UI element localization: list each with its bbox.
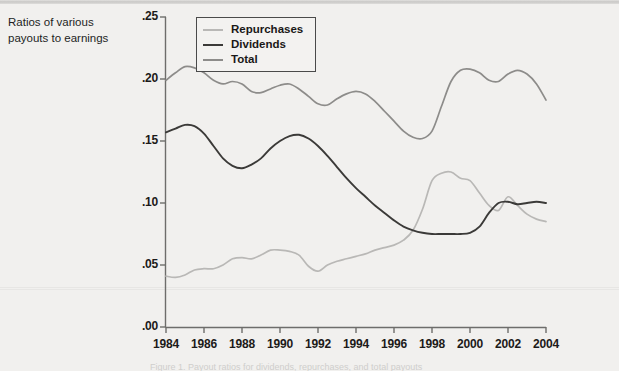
line-chart-figure: .00.05.10.15.20.25 198419861988199019921… <box>0 0 619 371</box>
x-axis-tick-label: 2002 <box>488 337 528 351</box>
legend-swatch-icon <box>203 29 223 31</box>
y-axis-tick-label: .00 <box>124 319 158 333</box>
x-axis-tick-label: 1984 <box>146 337 186 351</box>
legend-swatch-icon <box>203 44 223 46</box>
x-axis-tick-label: 1986 <box>184 337 224 351</box>
x-axis-tick-label: 1990 <box>260 337 300 351</box>
legend-swatch-icon <box>203 59 223 61</box>
y-axis-tick-label: .05 <box>124 257 158 271</box>
y-axis-tick-label: .10 <box>124 195 158 209</box>
y-axis-tick-label: .25 <box>124 9 158 23</box>
x-axis-tick-label: 1996 <box>374 337 414 351</box>
x-axis-tick-label: 1994 <box>336 337 376 351</box>
y-axis-tick-label: .15 <box>124 133 158 147</box>
chart-legend: RepurchasesDividendsTotal <box>196 17 316 72</box>
x-axis-tick-label: 2004 <box>526 337 566 351</box>
legend-item-label: Total <box>231 52 258 67</box>
legend-item: Repurchases <box>203 22 303 37</box>
x-axis-tick-label: 1998 <box>412 337 452 351</box>
legend-item-label: Dividends <box>231 37 286 52</box>
legend-item-label: Repurchases <box>231 22 303 37</box>
legend-item: Total <box>203 52 303 67</box>
series-line-total <box>166 66 546 139</box>
series-line-dividends <box>166 125 546 234</box>
legend-item: Dividends <box>203 37 303 52</box>
x-axis-tick-label: 2000 <box>450 337 490 351</box>
y-axis-tick-label: .20 <box>124 71 158 85</box>
x-axis-tick-label: 1992 <box>298 337 338 351</box>
x-axis-tick-label: 1988 <box>222 337 262 351</box>
footer-ghost-text: Figure 1. Payout ratios for dividends, r… <box>150 362 610 371</box>
